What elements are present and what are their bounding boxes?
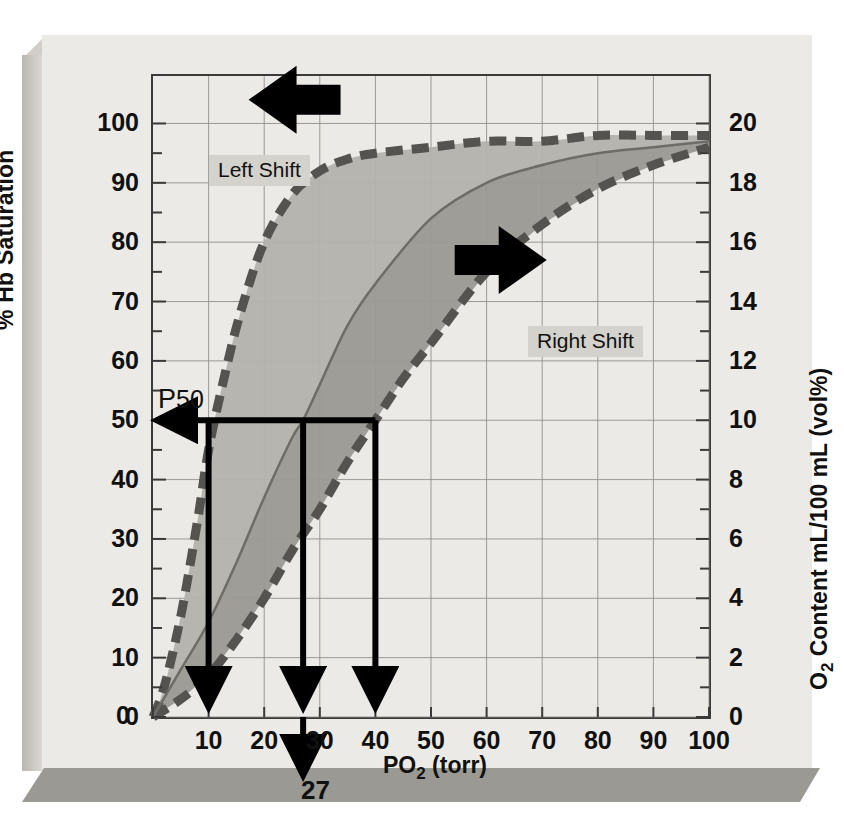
y2-axis-tick-label: 10 — [729, 405, 789, 434]
x-axis-tick-label: 30 — [290, 726, 350, 755]
y-axis-tick-label: 30 — [83, 524, 139, 553]
slab-left-edge — [22, 55, 44, 771]
x-axis-tick-label: 70 — [512, 726, 572, 755]
x-axis-tick-label: 90 — [623, 726, 683, 755]
x-axis-title: PO2 (torr) — [383, 752, 487, 784]
y2-axis-tick-label: 12 — [729, 346, 789, 375]
x-axis-tick-label: 60 — [457, 726, 517, 755]
y2-axis-title-main: O — [806, 672, 832, 690]
y2-axis-title-sub: 2 — [818, 663, 837, 672]
x-axis-title-main: PO — [383, 752, 416, 778]
p50-label-p: P — [158, 384, 176, 414]
y2-axis-tick-label: 4 — [729, 583, 789, 612]
p50-annotation: P50 — [158, 386, 204, 413]
x-axis-tick-label: 20 — [234, 726, 294, 755]
y-axis-tick-label: 80 — [83, 227, 139, 256]
x-axis-tick-label: 100 — [679, 726, 739, 755]
x-axis-tick-label: 40 — [345, 726, 405, 755]
y2-axis-tick-label: 20 — [729, 108, 789, 137]
right-shift-label: Right Shift — [528, 326, 643, 357]
y2-axis-tick-label: 18 — [729, 168, 789, 197]
y2-axis-tick-label: 8 — [729, 465, 789, 494]
x-axis-tick-label: 80 — [568, 726, 628, 755]
y-axis-tick-label: 60 — [83, 346, 139, 375]
y-axis-tick-label: 10 — [83, 643, 139, 672]
x-axis-tick-label-zero: 0 — [93, 701, 153, 730]
y-axis-title: % Hb Saturation — [0, 30, 19, 330]
y2-axis-title: O2 Content mL/100 mL (vol%) — [806, 220, 838, 690]
y-axis-tick-label: 40 — [83, 465, 139, 494]
y2-axis-title-rest: Content mL/100 mL (vol%) — [806, 368, 832, 663]
x-axis-title-sub: 2 — [416, 764, 425, 783]
y-axis-tick-label: 20 — [83, 583, 139, 612]
y2-axis-tick-label: 16 — [729, 227, 789, 256]
y-axis-title-text: % Hb Saturation — [0, 149, 18, 330]
x-axis-tick-label: 10 — [179, 726, 239, 755]
p50-label-sub: 50 — [176, 385, 204, 413]
p50-value-label: 27 — [301, 775, 330, 806]
y2-axis-tick-label: 14 — [729, 287, 789, 316]
y-axis-tick-label: 100 — [83, 108, 139, 137]
x-axis-title-unit: (torr) — [426, 752, 487, 778]
x-axis-tick-label: 50 — [401, 726, 461, 755]
y-axis-tick-label: 50 — [83, 405, 139, 434]
left-shift-label: Left Shift — [209, 155, 310, 186]
y2-axis-tick-label: 2 — [729, 643, 789, 672]
y-axis-tick-label: 70 — [83, 287, 139, 316]
y2-axis-tick-label: 6 — [729, 524, 789, 553]
y-axis-tick-label: 90 — [83, 168, 139, 197]
